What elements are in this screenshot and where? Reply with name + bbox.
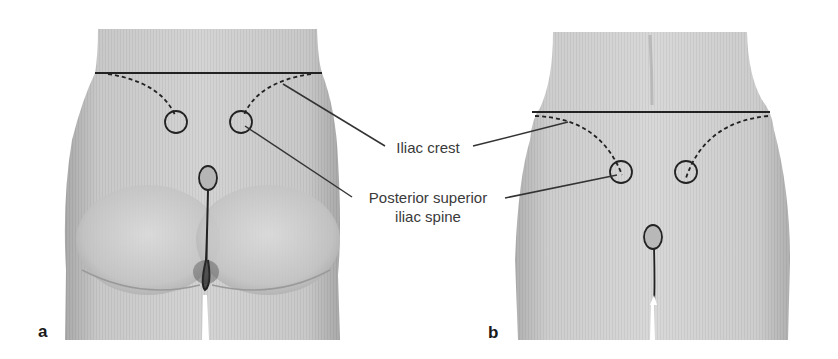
panel-label-b: b <box>488 323 498 342</box>
panel-label-a: a <box>38 322 48 341</box>
sacrum-oval-b <box>644 225 662 249</box>
panel-a: a <box>38 29 340 341</box>
label-psis-line1: Posterior superior <box>369 189 487 206</box>
sacrum-oval-a <box>199 166 217 190</box>
panel-b: b <box>488 32 790 342</box>
label-psis-line2: iliac spine <box>395 208 461 225</box>
annotation-labels: Iliac crest Posterior superior iliac spi… <box>369 139 487 225</box>
label-iliac-crest: Iliac crest <box>396 139 460 156</box>
right-buttock-a <box>196 185 340 295</box>
anatomy-figure: a b Iliac crest Posterior superior iliac… <box>0 0 838 359</box>
